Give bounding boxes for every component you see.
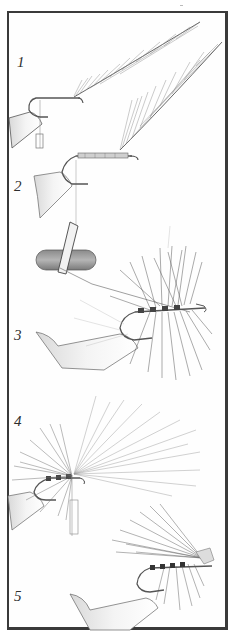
vise-jaw-icon bbox=[34, 172, 72, 218]
step-number-1: 1 bbox=[17, 54, 25, 71]
hook-icon bbox=[29, 98, 80, 117]
step-number-2: 2 bbox=[14, 178, 22, 195]
step-3-drawing bbox=[36, 222, 212, 380]
step-2-drawing bbox=[34, 42, 222, 225]
thread-body-icon bbox=[78, 153, 128, 158]
hackle-fibers-icon bbox=[110, 246, 212, 380]
step-number-5: 5 bbox=[14, 588, 22, 605]
vise-jaw-icon bbox=[36, 332, 138, 370]
fly-tying-illustration bbox=[0, 0, 230, 633]
hook-icon bbox=[34, 478, 80, 500]
step-number-4: 4 bbox=[14, 413, 22, 430]
step-number-3: 3 bbox=[14, 327, 22, 344]
step-5-drawing bbox=[70, 504, 214, 630]
step-4-drawing bbox=[8, 396, 200, 536]
elk-hair-wing-icon bbox=[112, 504, 202, 558]
vise-jaw-icon bbox=[70, 594, 158, 630]
bobbin-icon bbox=[70, 500, 78, 534]
hook-icon bbox=[120, 308, 205, 340]
step-1-drawing bbox=[9, 22, 200, 148]
bobbin-icon bbox=[36, 134, 43, 148]
hook-icon bbox=[62, 156, 132, 184]
vise-jaw-icon bbox=[9, 112, 42, 148]
